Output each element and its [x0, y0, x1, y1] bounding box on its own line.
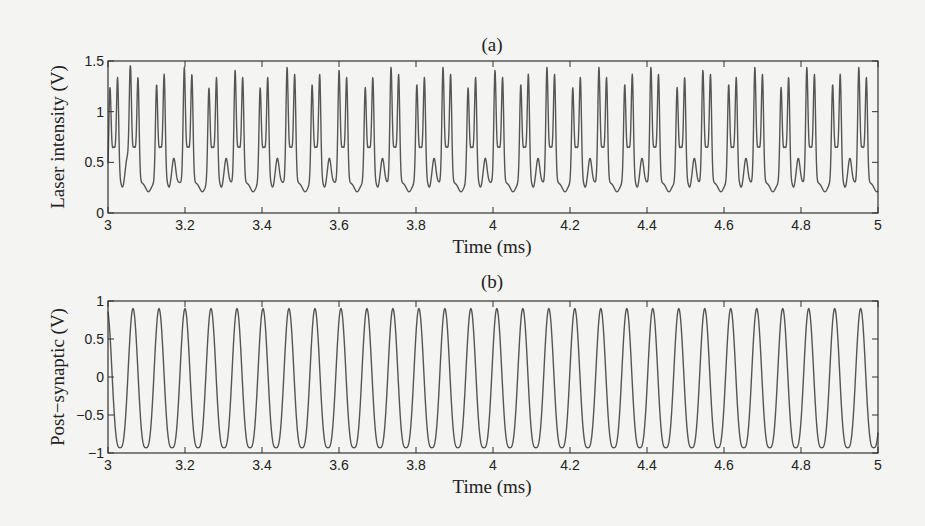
x-tick-label: 4	[489, 457, 497, 473]
x-tick-label: 5	[874, 217, 882, 233]
x-tick-label: 3.4	[252, 457, 272, 473]
x-tick-label: 3	[104, 217, 112, 233]
x-tick-label: 3.6	[329, 457, 349, 473]
panel-a-title: (a)	[481, 34, 502, 56]
x-tick-label: 4.2	[560, 457, 580, 473]
y-tick-label: −0.5	[76, 407, 104, 423]
y-tick-label: 1.5	[85, 53, 105, 69]
panel-b-title: (b)	[481, 271, 503, 293]
x-tick-label: 4.4	[637, 217, 657, 233]
x-tick-label: 4	[489, 217, 497, 233]
panel-b: (b) 33.23.43.63.844.24.44.64.85−1−0.500.…	[47, 271, 882, 498]
panel-b-series-line	[108, 309, 878, 448]
x-tick-label: 3.4	[252, 217, 272, 233]
x-tick-label: 3.2	[175, 457, 195, 473]
y-tick-label: 1	[96, 104, 104, 120]
y-tick-label: 0	[96, 369, 104, 385]
x-tick-label: 4.4	[637, 457, 657, 473]
x-tick-label: 3	[104, 457, 112, 473]
figure: (a) 33.23.43.63.844.24.44.64.8500.511.5 …	[0, 0, 925, 526]
x-tick-label: 3.2	[175, 217, 195, 233]
panel-a: (a) 33.23.43.63.844.24.44.64.8500.511.5 …	[47, 34, 882, 258]
x-tick-label: 4.8	[791, 217, 811, 233]
x-tick-label: 4.8	[791, 457, 811, 473]
y-tick-label: 0	[96, 205, 104, 221]
x-tick-label: 5	[874, 457, 882, 473]
y-tick-label: −1	[88, 445, 104, 461]
y-tick-label: 1	[96, 293, 104, 309]
x-tick-label: 4.6	[714, 457, 734, 473]
x-tick-label: 4.6	[714, 217, 734, 233]
panel-b-ylabel: Post−synaptic (V)	[47, 308, 69, 446]
panel-a-series-line	[108, 66, 878, 192]
panel-a-ylabel: Laser intensity (V)	[47, 65, 69, 209]
panel-a-xlabel: Time (ms)	[452, 236, 531, 258]
panel-b-xlabel: Time (ms)	[452, 476, 531, 498]
x-tick-label: 3.6	[329, 217, 349, 233]
x-tick-label: 3.8	[406, 457, 426, 473]
x-tick-label: 3.8	[406, 217, 426, 233]
y-tick-label: 0.5	[85, 331, 105, 347]
x-tick-label: 4.2	[560, 217, 580, 233]
y-tick-label: 0.5	[85, 154, 105, 170]
